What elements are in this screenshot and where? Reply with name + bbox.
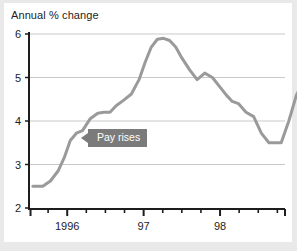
x-axis-ticks	[31, 209, 285, 216]
chart-figure: Annual % change 23456 19969798 Pay rises	[0, 0, 297, 251]
y-tick-label-2: 2	[7, 202, 21, 214]
y-tick-label-5: 5	[7, 72, 21, 84]
callout-arrow-icon	[81, 133, 88, 143]
x-tick-label-98: 98	[214, 220, 226, 232]
y-tick-label-6: 6	[7, 28, 21, 40]
pay-rises-callout: Pay rises	[88, 129, 147, 147]
x-tick-label-1996: 1996	[55, 220, 79, 232]
plot-area	[0, 0, 297, 251]
y-tick-label-3: 3	[7, 159, 21, 171]
x-tick-label-97: 97	[138, 220, 150, 232]
y-tick-label-4: 4	[7, 115, 21, 127]
